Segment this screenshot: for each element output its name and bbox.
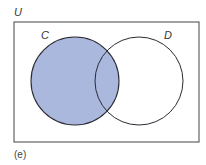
set-c-circle (31, 37, 119, 125)
figure-caption: (e) (14, 149, 26, 160)
universe-label: U (14, 6, 22, 18)
venn-diagram: U C D (e) (0, 0, 206, 165)
set-d-label: D (164, 29, 172, 41)
set-c-label: C (41, 29, 49, 41)
